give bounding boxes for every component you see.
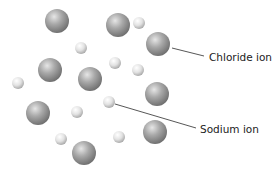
chloride-ion [146,32,170,56]
sodium-ion [132,64,144,76]
sodium-ion [103,96,115,108]
sodium-ion [109,57,121,69]
sodium-ion-label: Sodium ion [200,124,259,135]
sodium-ion [12,77,24,89]
chloride-ion [38,58,62,82]
chloride-ion [45,9,69,33]
sodium-ion [55,133,67,145]
chloride-ion [106,13,130,37]
chloride-ions [26,9,170,165]
chloride-ion-label: Chloride ion [209,52,272,63]
sodium-ion [133,17,145,29]
chloride-ion [26,101,50,125]
sodium-ion [75,42,87,54]
chloride-leader-line [172,48,204,56]
chloride-ion [143,120,167,144]
chloride-ion [72,141,96,165]
sodium-chloride-diagram: Chloride ion Sodium ion [0,0,280,178]
chloride-ion [78,67,102,91]
chloride-ion [145,82,169,106]
ion-lattice [0,0,280,178]
sodium-ion [113,131,125,143]
sodium-ion [71,106,83,118]
